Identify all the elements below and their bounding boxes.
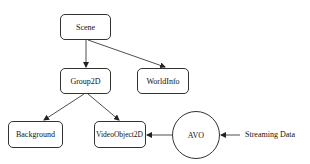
node-group2d: Group2D	[60, 68, 111, 94]
node-worldinfo: WorldInfo	[137, 68, 189, 94]
edge-scene-worldinfo	[88, 40, 165, 67]
node-videoobject2d: VideoObject2D	[94, 121, 146, 148]
node-background: Background	[8, 121, 63, 148]
scene-graph-diagram: Scene Group2D WorldInfo Background Video…	[0, 0, 310, 164]
node-avo: AVO	[172, 111, 220, 159]
streaming-data-label: Streaming Data	[245, 130, 295, 139]
edge-group2d-videoobject2d	[88, 94, 119, 120]
node-scene: Scene	[60, 14, 111, 40]
edge-group2d-background	[44, 94, 84, 120]
